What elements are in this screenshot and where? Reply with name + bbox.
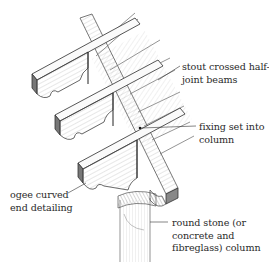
annotation-stout-crossed-beams: stout crossed half- joint beams <box>182 61 269 86</box>
annotation-ogee-curved-end: ogee curved end detailing <box>10 189 73 214</box>
annotation-round-stone-column: round stone (or concrete and fibreglass)… <box>172 217 260 255</box>
annotation-fixing-set-into-column: fixing set into column <box>199 121 264 146</box>
column-drawing <box>118 191 156 262</box>
